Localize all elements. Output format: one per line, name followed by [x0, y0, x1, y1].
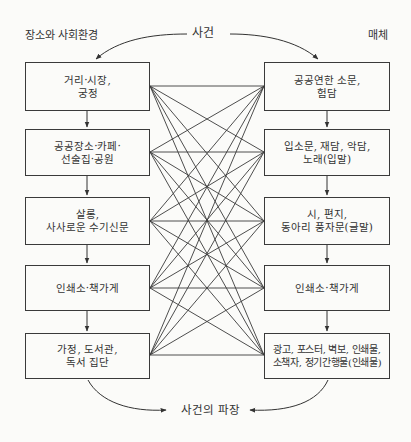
media-box-label: 인쇄소·책가게 [295, 282, 358, 295]
media-box-oral: 입소문, 재담, 악담, 노래(입말) [264, 129, 390, 176]
media-box-label: 공공연한 소문, 험담 [294, 74, 361, 100]
place-box-label: 공공장소·카페· 선술집·공원 [54, 140, 121, 166]
media-box-label: 입소문, 재담, 악담, 노래(입말) [284, 140, 371, 166]
place-box-label: 거리·시장, 궁정 [64, 74, 111, 100]
place-box-home-library: 가정, 도서관, 독서 집단 [25, 333, 150, 379]
media-box-printed-matter: 광고, 포스터, 벽보, 인쇄물, 소책자, 정기간행물(인쇄물) [264, 333, 390, 379]
media-box-written: 시, 편지, 동아리 풍자문(글말) [264, 197, 390, 245]
media-box-rumor: 공공연한 소문, 험담 [264, 62, 390, 111]
diagram: 장소와 사회환경 사건 매체 거리·시장, 궁정 공공장소·카페· 선술집·공원… [0, 0, 411, 442]
place-box-label: 가정, 도서관, 독서 집단 [57, 343, 117, 369]
place-box-printshop: 인쇄소·책가게 [25, 265, 150, 311]
media-box-printshop: 인쇄소·책가게 [264, 265, 390, 311]
media-box-label: 광고, 포스터, 벽보, 인쇄물, 소책자, 정기간행물(인쇄물) [273, 343, 382, 369]
event-heading: 사건 [192, 27, 214, 40]
event-impact-label: 사건의 파장 [181, 404, 240, 417]
places-heading: 장소와 사회환경 [25, 29, 99, 42]
media-box-label: 시, 편지, 동아리 풍자문(글말) [281, 208, 373, 234]
place-box-label: 살롱, 사사로운 수기신문 [46, 208, 129, 234]
place-box-label: 인쇄소·책가게 [56, 282, 119, 295]
place-box-street-market: 거리·시장, 궁정 [25, 62, 150, 111]
place-box-salon: 살롱, 사사로운 수기신문 [25, 197, 150, 245]
media-heading: 매체 [368, 29, 388, 42]
place-box-public-cafe: 공공장소·카페· 선술집·공원 [25, 129, 150, 176]
